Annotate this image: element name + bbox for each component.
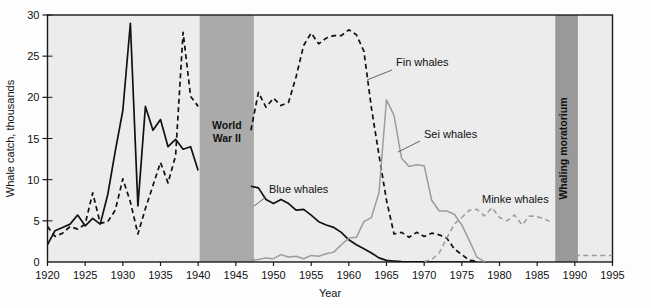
blue-whales-annotation: Blue whales [269, 183, 329, 195]
x-axis-title: Year [319, 287, 342, 299]
y-tick-label: 15 [27, 133, 39, 145]
y-tick-label: 20 [27, 91, 39, 103]
x-tick-label: 1955 [299, 269, 323, 281]
x-tick-label: 1950 [261, 269, 285, 281]
band-label-world-war-ii: War II [213, 132, 241, 144]
chart-svg: WorldWar IIWhaling moratorium05101520253… [0, 0, 651, 308]
x-tick-label: 1980 [487, 269, 511, 281]
x-tick-label: 1925 [73, 269, 97, 281]
x-tick-label: 1940 [186, 269, 210, 281]
y-tick-label: 5 [33, 215, 39, 227]
y-axis-title: Whale catch, thousands [4, 79, 16, 197]
minke-whales-annotation: Minke whales [482, 193, 549, 205]
x-tick-label: 1995 [600, 269, 624, 281]
x-tick-label: 1960 [337, 269, 361, 281]
fin-whales-annotation: Fin whales [396, 56, 449, 68]
y-tick-label: 0 [33, 256, 39, 268]
x-tick-label: 1930 [111, 269, 135, 281]
x-tick-label: 1990 [563, 269, 587, 281]
whale-catch-chart-figure: WorldWar IIWhaling moratorium05101520253… [0, 0, 651, 308]
x-tick-label: 1970 [412, 269, 436, 281]
x-tick-label: 1945 [224, 269, 248, 281]
x-tick-label: 1935 [148, 269, 172, 281]
y-tick-label: 25 [27, 50, 39, 62]
y-tick-label: 30 [27, 9, 39, 21]
band-label-whaling-moratorium: Whaling moratorium [557, 97, 569, 199]
x-tick-label: 1975 [450, 269, 474, 281]
sei-whales-annotation: Sei whales [424, 128, 478, 140]
x-tick-label: 1920 [35, 269, 59, 281]
x-tick-label: 1985 [525, 269, 549, 281]
y-tick-label: 10 [27, 174, 39, 186]
band-label-world-war-ii: World [212, 119, 242, 131]
x-tick-label: 1965 [374, 269, 398, 281]
